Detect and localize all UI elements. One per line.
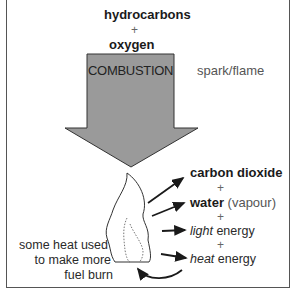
- product-light-label: light: [190, 224, 213, 238]
- product-plus-1: +: [217, 182, 224, 194]
- product-water: water (vapour): [190, 196, 276, 209]
- product-carbon-dioxide: carbon dioxide: [190, 166, 282, 179]
- reactant-oxygen: oxygen: [109, 38, 155, 51]
- product-heat-rest: energy: [214, 252, 256, 266]
- arrow-to-heat-energy-icon: [161, 254, 186, 258]
- process-label: COMBUSTION: [88, 64, 173, 77]
- product-heat-label: heat: [190, 252, 214, 266]
- product-plus-3: +: [217, 239, 224, 251]
- arrow-to-water-icon: [152, 203, 184, 216]
- reactant-hydrocarbons: hydrocarbons: [104, 8, 191, 21]
- product-light-energy: light energy: [190, 225, 255, 238]
- flame-icon: [106, 173, 150, 262]
- product-light-rest: energy: [213, 224, 255, 238]
- feedback-note-line2: to make more: [35, 254, 111, 267]
- process-condition: spark/flame: [197, 64, 264, 77]
- inner-flame-icon: [124, 218, 143, 262]
- product-plus-2: +: [217, 211, 224, 223]
- feedback-arrow-icon: [138, 269, 182, 278]
- reactant-plus: +: [131, 24, 138, 36]
- product-carbon-dioxide-label: carbon dioxide: [190, 165, 282, 180]
- product-water-label: water: [190, 195, 224, 210]
- feedback-note-line1: some heat used: [19, 239, 108, 252]
- arrow-to-light-energy-icon: [162, 230, 185, 231]
- arrow-to-carbon-dioxide-icon: [148, 178, 183, 203]
- product-heat-energy: heat energy: [190, 253, 256, 266]
- product-water-qualifier: (vapour): [224, 195, 276, 210]
- feedback-note-line3: fuel burn: [64, 269, 113, 282]
